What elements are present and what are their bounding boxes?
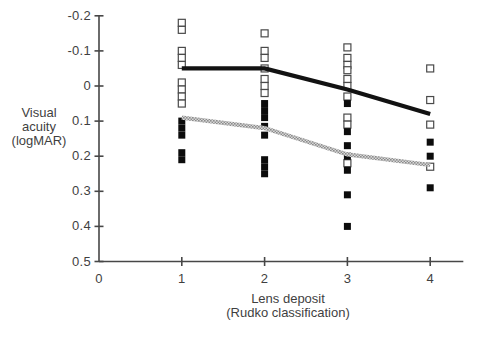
x-tick-label: 4 — [418, 271, 442, 286]
filled-square-marker — [344, 167, 351, 174]
y-tick-label: 0 — [49, 78, 91, 93]
open-square-marker — [261, 83, 268, 90]
open-square-marker — [261, 75, 268, 82]
filled-square-marker — [261, 156, 268, 163]
open-square-marker — [344, 93, 351, 100]
open-square-marker — [178, 79, 185, 86]
x-axis-title: Lens deposit (Rudko classification) — [188, 292, 388, 320]
open-square-marker — [344, 160, 351, 167]
chart-figure: Visual acuity (logMAR) Lens deposit (Rud… — [0, 0, 484, 338]
open-square-marker — [344, 75, 351, 82]
filled-square-marker — [344, 191, 351, 198]
open-squares — [178, 19, 433, 170]
open-square-marker — [178, 47, 185, 54]
y-tick-label: -0.1 — [49, 43, 91, 58]
open-square-marker — [261, 54, 268, 61]
filled-square-marker — [261, 170, 268, 177]
y-tick-label: 0.2 — [49, 148, 91, 163]
filled-square-marker — [261, 132, 268, 139]
filled-square-marker — [261, 114, 268, 121]
open-square-marker — [427, 121, 434, 128]
filled-square-marker — [427, 184, 434, 191]
open-square-marker — [344, 67, 351, 74]
open-square-marker — [178, 93, 185, 100]
filled-square-marker — [261, 163, 268, 170]
open-square-marker — [178, 19, 185, 26]
open-square-marker — [427, 65, 434, 72]
open-square-marker — [344, 44, 351, 51]
open-square-marker — [427, 97, 434, 104]
filled-square-marker — [344, 142, 351, 149]
filled-square-marker — [344, 128, 351, 135]
y-axis-title-line3: (logMAR) — [6, 134, 72, 148]
y-tick-label: 0.5 — [49, 254, 91, 269]
filled-square-marker — [427, 139, 434, 146]
y-tick-label: -0.2 — [49, 8, 91, 23]
filled-square-marker — [344, 100, 351, 107]
x-tick-label: 0 — [87, 271, 111, 286]
x-tick-label: 3 — [335, 271, 359, 286]
filled-squares — [178, 100, 433, 230]
open-square-marker — [344, 114, 351, 121]
open-square-marker — [344, 54, 351, 61]
solid-black-line — [182, 68, 430, 114]
filled-square-marker — [427, 153, 434, 160]
open-square-marker — [178, 26, 185, 33]
filled-square-marker — [261, 100, 268, 107]
filled-square-marker — [261, 107, 268, 114]
filled-square-marker — [344, 223, 351, 230]
x-axis-title-line2: (Rudko classification) — [188, 306, 388, 320]
open-square-marker — [261, 47, 268, 54]
y-tick-label: 0.4 — [49, 218, 91, 233]
x-tick-label: 1 — [170, 271, 194, 286]
open-square-marker — [344, 121, 351, 128]
filled-square-marker — [178, 149, 185, 156]
open-square-marker — [178, 100, 185, 107]
filled-square-marker — [178, 125, 185, 132]
x-axis-title-line1: Lens deposit — [188, 292, 388, 306]
y-tick-label: 0.1 — [49, 113, 91, 128]
axes — [95, 16, 464, 266]
hatched-gray-line — [182, 118, 430, 165]
y-tick-label: 0.3 — [49, 183, 91, 198]
open-square-marker — [261, 30, 268, 37]
x-tick-label: 2 — [253, 271, 277, 286]
open-square-marker — [178, 86, 185, 93]
filled-square-marker — [178, 156, 185, 163]
open-square-marker — [178, 54, 185, 61]
filled-square-marker — [178, 132, 185, 139]
open-square-marker — [261, 90, 268, 97]
